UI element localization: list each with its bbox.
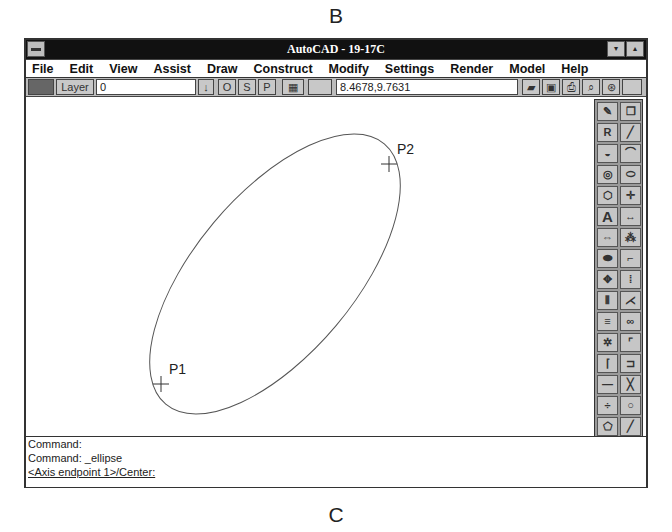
paper-space-toggle[interactable]: P — [258, 79, 276, 95]
print-icon[interactable]: ⎙ — [562, 79, 580, 95]
offset-icon[interactable]: — — [597, 375, 618, 394]
menu-assist[interactable]: Assist — [153, 62, 191, 76]
menu-construct[interactable]: Construct — [254, 62, 313, 76]
layer-field[interactable]: 0 — [96, 79, 196, 95]
explode-icon[interactable]: ✲ — [597, 333, 618, 352]
command-area[interactable]: Command: Command: _ellipse <Axis endpoin… — [26, 436, 646, 487]
figure-label-top: B — [0, 4, 672, 28]
divide-icon[interactable]: ÷ — [597, 396, 618, 415]
donut-icon[interactable]: ◒ — [597, 144, 618, 163]
figure-label-bottom: C — [0, 503, 672, 527]
menu-settings[interactable]: Settings — [385, 62, 434, 76]
command-line-2: Command: _ellipse — [26, 451, 646, 465]
command-line-1: Command: — [26, 437, 646, 451]
menu-draw[interactable]: Draw — [207, 62, 238, 76]
cross-icon[interactable]: ╳ — [620, 375, 641, 394]
chamfer-icon[interactable]: ⌜ — [620, 333, 641, 352]
break-icon[interactable]: ∞ — [620, 312, 641, 331]
autocad-window: AutoCAD - 19-17C ▾ ▴ File Edit View Assi… — [24, 38, 648, 488]
extend-icon[interactable]: ⌈ — [597, 354, 618, 373]
icon-menu-panel: ✎ ❐ R ╱ ◒ ⌒ ◎ ⬭ ⬡ ✛ A ↔ ⇔ ⁂ ⬬ ⌐ ✥ ⁞ ⫴ ⋌ … — [594, 99, 643, 450]
text-icon[interactable]: A — [597, 207, 618, 226]
polygon-icon[interactable]: ⬡ — [597, 186, 618, 205]
fillet-icon[interactable]: ⌐ — [620, 249, 641, 268]
snap-toggle[interactable]: S — [238, 79, 256, 95]
ellipse-icon[interactable]: ⬭ — [620, 165, 641, 184]
copy-window-icon[interactable]: ❐ — [620, 102, 641, 121]
menu-modify[interactable]: Modify — [329, 62, 369, 76]
grid-icon[interactable]: ▦ — [282, 79, 304, 95]
menu-help[interactable]: Help — [561, 62, 588, 76]
save-icon[interactable]: ▣ — [542, 79, 560, 95]
menu-render[interactable]: Render — [450, 62, 493, 76]
point-label-p2: P2 — [397, 141, 414, 157]
point-label-p1: P1 — [169, 361, 186, 377]
circle-icon[interactable]: ◎ — [597, 165, 618, 184]
menu-file[interactable]: File — [32, 62, 54, 76]
regen-icon[interactable]: ⊛ — [602, 79, 620, 95]
zoom-window-icon[interactable]: ⌕ — [582, 79, 600, 95]
ortho-toggle[interactable]: O — [218, 79, 236, 95]
trim-icon[interactable]: ⊐ — [620, 354, 641, 373]
maximize-button[interactable]: ▴ — [626, 41, 644, 57]
coordinate-display: 8.4678,9.7631 — [336, 79, 518, 95]
erase-icon[interactable]: ⬬ — [597, 249, 618, 268]
array-icon[interactable]: ⁞ — [620, 270, 641, 289]
redraw-icon[interactable]: R — [597, 123, 618, 142]
point-icon[interactable]: ✛ — [620, 186, 641, 205]
pencil-icon[interactable]: ✎ — [597, 102, 618, 121]
ellipse-drawing — [26, 97, 646, 435]
p2-marker — [381, 156, 397, 172]
line-icon[interactable]: ╱ — [620, 123, 641, 142]
toolbar: Layer 0 ↓ O S P ▦ 8.4678,9.7631 ▰ ▣ ⎙ ⌕ … — [26, 78, 646, 97]
open-icon[interactable]: ▰ — [522, 79, 540, 95]
menu-bar: File Edit View Assist Draw Construct Mod… — [26, 60, 646, 78]
dimension-icon[interactable]: ↔ — [620, 207, 641, 226]
menu-edit[interactable]: Edit — [70, 62, 94, 76]
circle-2-icon[interactable]: ○ — [620, 396, 641, 415]
minimize-button[interactable]: ▾ — [607, 41, 625, 57]
window-title: AutoCAD - 19-17C — [26, 42, 646, 57]
arc-icon[interactable]: ⌒ — [620, 144, 641, 163]
line-2-icon[interactable]: ╱ — [620, 417, 641, 436]
align-icon[interactable]: ≡ — [597, 312, 618, 331]
blank-toolbar-button-2[interactable] — [622, 79, 642, 95]
menu-view[interactable]: View — [109, 62, 137, 76]
scale-icon[interactable]: ⋌ — [620, 291, 641, 310]
polygon-2-icon[interactable]: ⬠ — [597, 417, 618, 436]
move-icon[interactable]: ✥ — [597, 270, 618, 289]
p1-marker — [153, 376, 169, 392]
blank-toolbar-button[interactable] — [308, 79, 332, 95]
layer-button[interactable]: Layer — [56, 79, 94, 95]
stretch-icon[interactable]: ⇔ — [597, 228, 618, 247]
mirror-icon[interactable]: ⫴ — [597, 291, 618, 310]
hatch-icon[interactable]: ⁂ — [620, 228, 641, 247]
title-bar: AutoCAD - 19-17C ▾ ▴ — [26, 40, 646, 60]
menu-model[interactable]: Model — [509, 62, 545, 76]
drawing-canvas[interactable]: P1 P2 — [26, 97, 646, 435]
color-swatch-button[interactable] — [28, 79, 54, 95]
layer-dropdown-arrow[interactable]: ↓ — [198, 79, 214, 95]
command-prompt[interactable]: <Axis endpoint 1>/Center: — [26, 465, 646, 479]
